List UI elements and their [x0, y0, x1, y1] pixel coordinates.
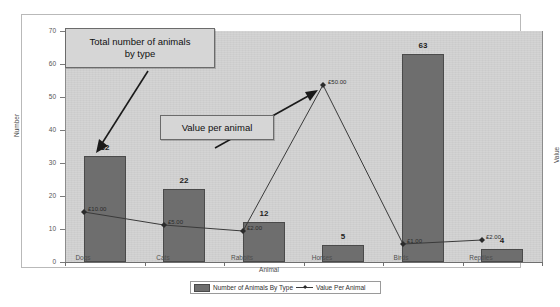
x-category-label-reptiles: Reptiles: [446, 254, 516, 262]
x-category-label-cats: Cats: [128, 254, 198, 262]
y-tick-50: [60, 97, 65, 98]
legend-label-bars: Number of Animals By Type: [213, 284, 293, 291]
legend-bar-swatch-icon: [194, 284, 210, 292]
y-tick-label-30: 30: [34, 159, 56, 166]
value-label-rabbits: £2.00: [247, 225, 262, 232]
y-tick-label-70: 70: [34, 27, 56, 34]
bar-value-label-horses: 5: [313, 232, 373, 241]
callout-line-text: Value per animal: [182, 122, 253, 134]
chart-legend: Number of Animals By Type Value Per Anim…: [190, 281, 381, 294]
legend-line-marker-icon: [296, 284, 313, 291]
y-tick-label-40: 40: [34, 126, 56, 133]
y-tick-label-50: 50: [34, 93, 56, 100]
y-axis-title: Number: [13, 114, 20, 137]
value-label-reptiles: £2.00: [486, 234, 501, 241]
y-tick-20: [60, 196, 65, 197]
value-label-cats: £5.00: [168, 219, 183, 226]
callout-bars: Total number of animals by type: [65, 28, 215, 68]
legend-label-line: Value Per Animal: [316, 284, 365, 291]
x-axis-title: Animal: [0, 266, 538, 273]
x-category-label-dogs: Dogs: [48, 254, 118, 262]
y-tick-label-10: 10: [34, 225, 56, 232]
bar-value-label-birds: 63: [393, 41, 453, 50]
bar-value-label-rabbits: 12: [234, 209, 294, 218]
value-label-horses: £50.00: [328, 79, 346, 86]
value-label-dogs: £10.00: [88, 206, 106, 213]
x-category-label-rabbits: Rabbits: [207, 254, 277, 262]
x-category-label-birds: Birds: [366, 254, 436, 262]
callout-line: Value per animal: [160, 115, 274, 140]
y-tick-30: [60, 163, 65, 164]
bar-value-label-cats: 22: [154, 176, 214, 185]
x-category-label-horses: Horses: [287, 254, 357, 262]
bar-value-label-dogs: 32: [75, 143, 135, 152]
x-tick-6: [542, 262, 543, 266]
callout-bars-text: Total number of animals by type: [90, 36, 191, 60]
value-label-birds: £1.00: [407, 238, 422, 245]
secondary-y-axis-line: [542, 31, 543, 263]
secondary-y-axis-title: Value: [553, 147, 560, 163]
y-tick-10: [60, 229, 65, 230]
bar-value-label-reptiles: 4: [472, 236, 532, 245]
callout-bars-line2: by type: [125, 48, 156, 59]
callout-bars-line1: Total number of animals: [90, 36, 191, 47]
y-tick-label-60: 60: [34, 60, 56, 67]
bar-birds: [402, 54, 444, 262]
y-tick-40: [60, 130, 65, 131]
y-tick-label-20: 20: [34, 192, 56, 199]
